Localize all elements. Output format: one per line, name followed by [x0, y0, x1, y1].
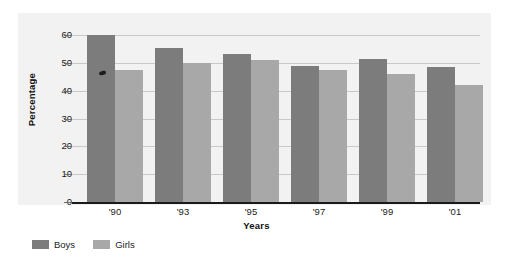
- bar-girls-90: [115, 70, 143, 202]
- bar-boys-93: [155, 48, 183, 202]
- bar-chart-figure: Percentage 0102030405060 '90'93'95'97'99…: [0, 0, 513, 264]
- bar-group: [358, 35, 416, 202]
- x-tick-label: '90: [86, 206, 144, 217]
- x-axis-title: Years: [0, 220, 513, 231]
- bar-boys-01: [427, 67, 455, 202]
- y-tick-mark: [64, 146, 72, 147]
- x-tick-label: '01: [426, 206, 484, 217]
- bar-group: [86, 35, 144, 202]
- x-tick-label: '97: [290, 206, 348, 217]
- legend-item-boys: Boys: [32, 240, 75, 250]
- y-axis-tick-labels: 0102030405060: [36, 35, 72, 202]
- bar-group: [426, 35, 484, 202]
- bar-boys-97: [291, 66, 319, 202]
- bar-group: [154, 35, 212, 202]
- legend-label: Girls: [115, 240, 135, 250]
- y-tick-mark: [64, 91, 72, 92]
- plot-area: [72, 35, 480, 202]
- legend-label: Boys: [54, 240, 75, 250]
- bar-girls-01: [455, 85, 483, 202]
- bar-girls-99: [387, 74, 415, 202]
- x-tick-label: '93: [154, 206, 212, 217]
- bar-girls-95: [251, 60, 279, 202]
- x-tick-label: '95: [222, 206, 280, 217]
- x-tick-label: '99: [358, 206, 416, 217]
- y-tick-mark: [64, 119, 72, 120]
- y-tick-mark: [64, 63, 72, 64]
- bar-boys-90: [87, 35, 115, 202]
- chart-legend: BoysGirls: [32, 240, 135, 250]
- y-tick-mark: [64, 35, 72, 36]
- bar-group: [222, 35, 280, 202]
- legend-swatch-boys: [32, 240, 49, 249]
- bar-boys-99: [359, 59, 387, 202]
- bar-boys-95: [223, 54, 251, 202]
- y-tick-mark: [64, 202, 72, 203]
- x-axis-line: [72, 202, 480, 204]
- bar-girls-93: [183, 63, 211, 202]
- y-tick-mark: [64, 174, 72, 175]
- bar-girls-97: [319, 70, 347, 202]
- legend-item-girls: Girls: [93, 240, 135, 250]
- bar-group: [290, 35, 348, 202]
- legend-swatch-girls: [93, 240, 110, 249]
